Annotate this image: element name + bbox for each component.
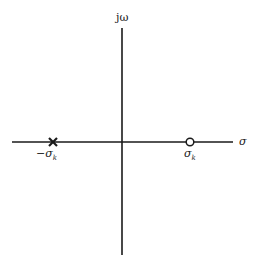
zero-marker-icon	[186, 138, 194, 146]
pole-label: −σk	[36, 148, 57, 162]
imaginary-axis-label: jω	[116, 12, 128, 23]
real-axis-label: σ	[239, 136, 247, 147]
zero-label-main: σ	[184, 147, 192, 160]
s-plane-svg	[0, 0, 259, 263]
s-plane-diagram: jω σ −σk σk	[0, 0, 259, 263]
pole-label-subscript: k	[53, 154, 57, 162]
zero-label-subscript: k	[192, 154, 196, 162]
zero-label: σk	[184, 148, 196, 162]
pole-label-main: −σ	[36, 147, 53, 160]
